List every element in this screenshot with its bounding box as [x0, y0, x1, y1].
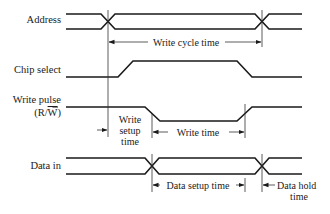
annotation-write-setup-1: Write	[119, 114, 142, 125]
waveform-data-in	[66, 158, 302, 174]
signal-label-address: Address	[27, 14, 61, 25]
annotation-data-setup-time: Data setup time	[167, 180, 230, 191]
timing-diagram: Address Chip select Write pulse (R/W) Da…	[0, 0, 330, 214]
annotation-write-cycle-time: Write cycle time	[153, 37, 220, 48]
signal-sublabel-rw: (R/W)	[34, 107, 61, 119]
waveform-write-pulse	[66, 107, 302, 121]
annotation-write-setup-2: setup	[119, 125, 140, 136]
signal-label-write-pulse: Write pulse	[13, 94, 62, 105]
annotation-data-hold-1: Data hold	[277, 180, 316, 191]
waveform-address	[66, 14, 302, 29]
annotation-write-setup-3: time	[121, 136, 139, 147]
annotation-write-time: Write time	[177, 127, 220, 138]
signal-label-data-in: Data in	[30, 160, 61, 171]
annotation-data-hold-2: time	[290, 191, 308, 202]
signal-label-chip-select: Chip select	[14, 64, 61, 75]
waveform-chip-select	[66, 61, 302, 77]
